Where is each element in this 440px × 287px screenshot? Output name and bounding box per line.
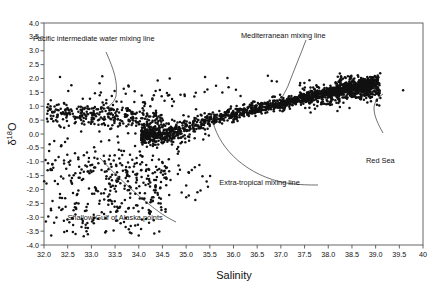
data-point [67,112,70,115]
data-point [348,80,351,83]
data-point [183,120,186,123]
data-point [226,77,229,80]
data-point [208,123,211,126]
data-point [72,115,75,118]
data-point [77,105,80,108]
data-point [327,91,330,94]
y-axis-title-superscript: 18 [5,131,14,139]
data-point [200,126,203,129]
data-point [64,141,67,144]
data-point [132,207,135,210]
data-point [109,128,112,131]
data-point [282,100,285,103]
data-point [155,112,158,115]
data-point [113,90,116,93]
data-point [300,101,303,104]
data-point [196,125,199,128]
data-point [147,209,150,212]
data-point [371,90,374,93]
data-point [118,157,121,160]
data-point [116,181,119,184]
data-point [119,122,122,125]
data-point [337,75,340,78]
data-point [109,117,112,120]
data-point [143,197,146,200]
data-point [146,130,149,133]
data-point [121,109,124,112]
data-point [144,117,147,120]
data-point [88,187,91,190]
data-point [109,176,112,179]
data-point [80,112,83,115]
data-point [325,99,328,102]
data-point [247,115,250,118]
data-point [46,106,49,109]
data-point [402,89,405,92]
data-point [74,203,77,206]
data-point [121,202,124,205]
data-point [91,193,94,196]
data-point [93,123,96,126]
data-point [94,92,97,95]
data-point [115,110,118,113]
data-point [82,117,85,120]
data-point [84,106,87,109]
data-point [66,230,69,233]
plot-canvas: 32.032.533.033.534.034.535.035.536.036.5… [0,0,440,287]
data-point [137,224,140,227]
x-tick-label: 34.0 [132,250,146,259]
data-point [173,130,176,133]
x-tick-label: 32.5 [61,250,75,259]
data-point [159,116,162,119]
data-point [267,75,270,78]
data-point [127,207,130,210]
data-point [152,140,155,143]
data-point [133,101,136,104]
data-point [174,135,177,138]
data-point [122,122,125,125]
data-point [98,203,101,206]
data-point [116,209,119,212]
data-point [111,124,114,127]
x-tick-label: 33.0 [84,250,98,259]
data-point [146,132,149,135]
data-point [212,111,215,114]
data-point [144,192,147,195]
data-point [350,94,353,97]
data-point [154,171,157,174]
y-tick-label: 3.0 [29,46,39,55]
data-point [298,100,301,103]
data-point [280,104,283,107]
data-point [367,94,370,97]
data-point [193,95,196,98]
data-point [236,116,239,119]
data-point [65,104,68,107]
data-point [105,102,108,105]
data-point [160,206,163,209]
data-point [157,127,160,130]
data-point [127,161,130,164]
data-point [57,156,60,159]
data-point [46,169,49,172]
data-point [208,134,211,137]
data-point [146,121,149,124]
data-point [63,159,66,162]
data-point [243,103,246,106]
data-point [173,120,176,123]
data-point [255,105,258,108]
data-point [169,129,172,132]
data-point [56,116,59,119]
data-point [80,168,83,171]
data-point [117,141,120,144]
data-point [278,99,281,102]
data-point [71,110,74,113]
data-point [188,139,191,142]
data-point [376,79,379,82]
data-point [133,162,136,165]
data-point [63,162,66,165]
data-point [288,99,291,102]
data-point [104,231,107,234]
data-point [183,127,186,130]
data-point [158,158,161,161]
data-point [179,169,182,172]
